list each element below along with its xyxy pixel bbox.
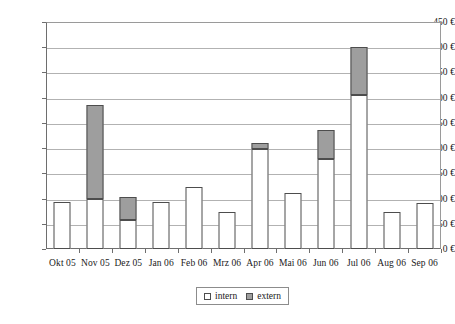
- bar-stack[interactable]: [87, 105, 104, 249]
- bar-segment-extern[interactable]: [317, 130, 334, 159]
- bar-stack[interactable]: [153, 202, 170, 249]
- x-tick-label: Feb 06: [178, 257, 211, 269]
- y-tick-mark: [42, 249, 46, 250]
- bar-stack[interactable]: [219, 212, 236, 249]
- bar-segment-intern[interactable]: [317, 159, 334, 249]
- x-tick-label: Apr 06: [244, 257, 277, 269]
- stacked-bar-chart: 0 €50 €100 €150 €200 €250 €300 €350 €400…: [0, 0, 455, 324]
- bar-slot: [342, 22, 375, 249]
- bar-segment-extern[interactable]: [350, 47, 367, 95]
- x-tick-label: Mrz 06: [211, 257, 244, 269]
- bar-segment-intern[interactable]: [54, 202, 71, 249]
- x-tick-label: Nov 05: [79, 257, 112, 269]
- legend-label: extern: [257, 290, 281, 302]
- x-tick-label: Sep 06: [408, 257, 441, 269]
- x-tick-label: Jun 06: [309, 257, 342, 269]
- gray-square-icon: [246, 293, 253, 300]
- chart-legend: internextern: [196, 287, 289, 305]
- x-tick-mark: [441, 249, 442, 253]
- x-tick-mark: [309, 249, 310, 253]
- x-tick-mark: [211, 249, 212, 253]
- bar-slot: [244, 22, 277, 249]
- bar-stack[interactable]: [317, 130, 334, 249]
- x-tick-mark: [145, 249, 146, 253]
- bar-slot: [211, 22, 244, 249]
- bar-slot: [276, 22, 309, 249]
- bar-slot: [178, 22, 211, 249]
- x-tick-mark: [244, 249, 245, 253]
- x-tick-mark: [79, 249, 80, 253]
- legend-entry-intern[interactable]: intern: [204, 290, 237, 302]
- bar-slot: [112, 22, 145, 249]
- bar-slot: [46, 22, 79, 249]
- bar-segment-intern[interactable]: [153, 202, 170, 249]
- bar-segment-extern[interactable]: [120, 197, 137, 220]
- bars-layer: [46, 22, 441, 249]
- bar-slot: [408, 22, 441, 249]
- x-tick-label: Aug 06: [375, 257, 408, 269]
- x-tick-mark: [112, 249, 113, 253]
- bar-segment-intern[interactable]: [251, 149, 268, 249]
- bar-slot: [79, 22, 112, 249]
- x-tick-mark: [178, 249, 179, 253]
- bar-segment-intern[interactable]: [284, 193, 301, 249]
- legend-entry-extern[interactable]: extern: [246, 290, 281, 302]
- bar-stack[interactable]: [284, 193, 301, 249]
- bar-stack[interactable]: [186, 187, 203, 249]
- bar-segment-intern[interactable]: [87, 199, 104, 249]
- x-tick-mark: [375, 249, 376, 253]
- bar-slot: [145, 22, 178, 249]
- x-tick-label: Jan 06: [145, 257, 178, 269]
- bar-segment-intern[interactable]: [120, 220, 137, 249]
- bar-segment-intern[interactable]: [219, 212, 236, 249]
- bar-segment-intern[interactable]: [186, 187, 203, 249]
- bar-stack[interactable]: [54, 202, 71, 249]
- x-tick-label: Mai 06: [276, 257, 309, 269]
- x-tick-mark: [276, 249, 277, 253]
- x-tick-label: Okt 05: [46, 257, 79, 269]
- bar-slot: [375, 22, 408, 249]
- x-tick-label: Jul 06: [342, 257, 375, 269]
- bar-segment-intern[interactable]: [383, 212, 400, 249]
- bar-stack[interactable]: [251, 143, 268, 249]
- x-tick-label: Dez 05: [112, 257, 145, 269]
- x-tick-mark: [408, 249, 409, 253]
- x-tick-mark: [342, 249, 343, 253]
- bar-segment-intern[interactable]: [416, 203, 433, 249]
- bar-segment-extern[interactable]: [87, 105, 104, 198]
- bar-stack[interactable]: [350, 47, 367, 249]
- bar-slot: [309, 22, 342, 249]
- bar-stack[interactable]: [383, 212, 400, 249]
- white-square-icon: [204, 293, 211, 300]
- bar-stack[interactable]: [120, 197, 137, 249]
- bar-segment-intern[interactable]: [350, 95, 367, 249]
- legend-label: intern: [215, 290, 237, 302]
- bar-stack[interactable]: [416, 203, 433, 249]
